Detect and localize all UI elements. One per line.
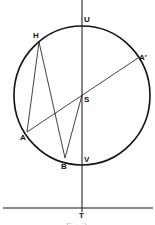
label-h: H xyxy=(33,31,39,40)
label-b: B xyxy=(61,162,67,171)
label-s: S xyxy=(84,95,90,104)
line-a-h xyxy=(27,42,39,132)
figure-caption: Fig. 2 xyxy=(66,221,87,225)
label-v: V xyxy=(84,155,90,164)
label-u: U xyxy=(84,15,90,24)
line-h-b xyxy=(39,42,65,158)
geometry-figure: U H A′ S A B V T Fig. 2 xyxy=(0,0,155,225)
label-a-prime: A′ xyxy=(139,53,147,62)
label-a: A xyxy=(20,133,26,142)
label-t: T xyxy=(79,211,84,220)
line-b-s xyxy=(65,95,82,158)
